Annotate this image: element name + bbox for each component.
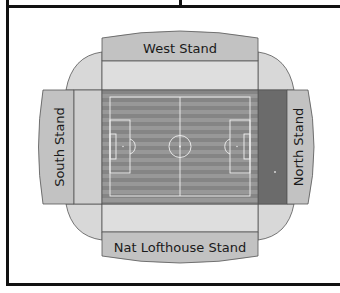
left-penalty-spot [122, 146, 123, 147]
nat-lofthouse-stand-label: Nat Lofthouse Stand [114, 240, 246, 255]
corner-south-west [66, 204, 102, 240]
north-stand-label: North Stand [291, 108, 306, 186]
west-stand-label: West Stand [143, 41, 217, 56]
pitch [102, 90, 258, 204]
corner-north-west [66, 52, 102, 90]
south-stand-label: South Stand [52, 107, 67, 187]
east-concourse [102, 204, 258, 232]
corner-north-east [258, 52, 294, 90]
north-marker-dot [274, 171, 276, 173]
west-concourse [102, 61, 258, 90]
corner-south-east [258, 204, 294, 240]
south-concourse [74, 90, 102, 204]
stadium-diagram: West Stand South Stand North Stand Nat L… [0, 0, 340, 293]
right-penalty-spot [236, 146, 237, 147]
north-inner-band [258, 90, 287, 204]
centre-spot [179, 146, 181, 148]
